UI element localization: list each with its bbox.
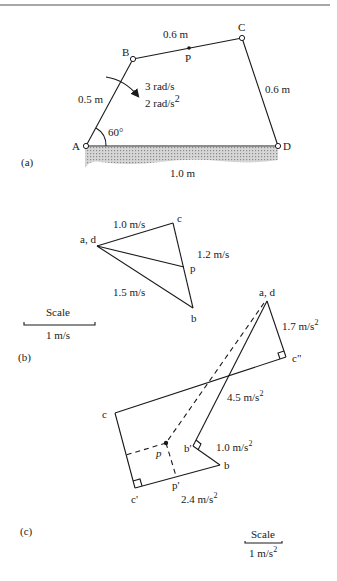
length-AB: 0.5 m bbox=[78, 93, 104, 105]
label-A: A bbox=[72, 140, 80, 152]
label-c1: c' bbox=[131, 493, 138, 505]
mag-cb: 1.2 m/s bbox=[197, 248, 229, 260]
length-AD: 1.0 m bbox=[170, 167, 196, 179]
mag-ab1: 4.5 m/s2 bbox=[227, 389, 263, 403]
label-P: P bbox=[185, 52, 191, 64]
mag-dc2: 1.7 m/s2 bbox=[282, 318, 318, 332]
joint-A bbox=[83, 143, 88, 148]
label-p: p bbox=[155, 447, 162, 459]
dashed-pp1 bbox=[166, 443, 176, 476]
panel-a-label: (a) bbox=[21, 156, 34, 169]
angle-arc bbox=[96, 128, 106, 146]
vector-ab1 bbox=[193, 301, 267, 446]
label-ad: a, d bbox=[259, 286, 275, 298]
label-ad: a, d bbox=[80, 233, 96, 245]
angular-velocity: 3 rad/s bbox=[145, 80, 175, 92]
dashed-ap bbox=[166, 303, 264, 443]
joint-D bbox=[275, 143, 280, 148]
label-c2: c" bbox=[292, 352, 301, 364]
label-p: p bbox=[190, 262, 196, 274]
label-b: b bbox=[191, 312, 197, 324]
label-b1: b' bbox=[184, 442, 192, 454]
mag-ab: 1.5 m/s bbox=[113, 286, 145, 298]
joint-B bbox=[130, 56, 135, 61]
point-p bbox=[164, 441, 168, 445]
vector-c2c bbox=[115, 357, 286, 413]
vector-ab bbox=[97, 246, 193, 308]
panel-c-acceleration-polygon: a, d c" c c' p p' b' b 1.7 m/s2 4.5 m/s2… bbox=[20, 286, 318, 559]
label-b: b bbox=[224, 459, 230, 471]
mag-b1b: 1.0 m/s2 bbox=[216, 439, 252, 453]
angular-acceleration: 2 rad/s2 bbox=[145, 93, 180, 109]
vector-cc1 bbox=[115, 413, 135, 488]
scale-bar bbox=[245, 541, 282, 543]
label-p1: p' bbox=[172, 479, 180, 491]
point-P bbox=[187, 46, 191, 50]
scale-title: Scale bbox=[251, 528, 275, 540]
scale-value: 1 m/s bbox=[46, 329, 70, 341]
vector-ap bbox=[97, 246, 184, 267]
label-B: B bbox=[122, 46, 129, 58]
ground-hatch bbox=[85, 147, 278, 168]
label-D: D bbox=[283, 140, 291, 152]
joint-C bbox=[239, 35, 244, 40]
mag-c1p1: 2.4 m/s2 bbox=[181, 491, 217, 505]
panel-c-label: (c) bbox=[20, 525, 33, 538]
panel-b-velocity-polygon: a, d c p b 1.0 m/s 1.2 m/s 1.5 m/s Scale… bbox=[18, 212, 229, 364]
label-c: c bbox=[102, 408, 107, 420]
scale-title: Scale bbox=[46, 306, 70, 318]
scale-bar bbox=[24, 322, 95, 325]
label-c: c bbox=[177, 212, 182, 224]
panel-b-label: (b) bbox=[18, 351, 31, 364]
scale-value: 1 m/s2 bbox=[249, 545, 277, 559]
label-C: C bbox=[238, 21, 245, 33]
panel-a-linkage: A B C D P 0.6 m 0.5 m 0.6 m 1.0 m 60° 3 … bbox=[21, 21, 291, 179]
mechanism-figure: A B C D P 0.6 m 0.5 m 0.6 m 1.0 m 60° 3 … bbox=[0, 0, 337, 581]
length-BC: 0.6 m bbox=[163, 28, 189, 40]
angle-label: 60° bbox=[108, 126, 123, 138]
mag-dc: 1.0 m/s bbox=[113, 218, 145, 230]
length-CD: 0.6 m bbox=[265, 83, 291, 95]
